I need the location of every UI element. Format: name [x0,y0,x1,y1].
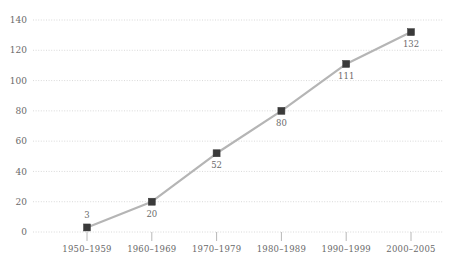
data-point-marker [408,29,415,36]
x-axis-tick-label: 1990–1999 [322,244,371,254]
data-point-label: 132 [403,39,419,49]
chart-canvas: 020406080100120140 1950–19591960–1969197… [0,0,454,269]
data-point-label: 80 [276,118,287,128]
x-axis-tick-label: 1960–1969 [127,244,176,254]
line-chart: 020406080100120140 1950–19591960–1969197… [0,0,454,269]
data-point-label: 20 [146,209,157,219]
x-axis-tick-label: 1970–1979 [192,244,241,254]
data-point-marker [84,224,91,231]
data-point-marker [148,198,155,205]
data-point-marker [343,60,350,67]
y-axis-tick-label: 80 [16,106,28,116]
x-axis-tick-label: 2000–2005 [386,244,435,254]
y-axis-tick-label: 140 [10,15,27,25]
data-point-marker [278,107,285,114]
data-point-label: 52 [211,160,222,170]
x-axis-tick-label: 1950–1959 [62,244,111,254]
chart-background [0,0,454,269]
data-point-marker [213,150,220,157]
y-axis-tick-label: 100 [10,76,27,86]
y-axis-tick-label: 0 [21,227,27,237]
data-point-label: 3 [84,210,89,220]
y-axis-tick-label: 120 [10,45,27,55]
y-axis-tick-label: 60 [16,136,28,146]
y-axis-tick-label: 40 [16,167,28,177]
data-point-label: 111 [338,71,354,81]
x-axis-tick-label: 1980–1989 [257,244,306,254]
y-axis-tick-label: 20 [16,197,28,207]
